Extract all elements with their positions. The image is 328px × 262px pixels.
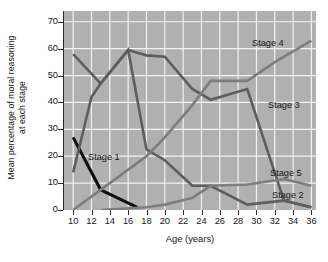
chart-figure: Mean percentage of moral reasoning at ea… bbox=[0, 0, 328, 262]
series-annotation-label: Stage 4 bbox=[252, 38, 284, 48]
x-tick-mark bbox=[238, 210, 239, 215]
x-tick-mark bbox=[147, 210, 148, 215]
x-tick-mark bbox=[311, 210, 312, 215]
series-lines bbox=[73, 41, 311, 210]
x-tick-mark bbox=[92, 210, 93, 215]
x-tick-mark bbox=[128, 210, 129, 215]
y-tick-label: 50 bbox=[36, 71, 58, 80]
x-tick-mark bbox=[183, 210, 184, 215]
y-tick-label: 60 bbox=[36, 44, 58, 53]
y-tick-mark bbox=[58, 210, 63, 211]
y-tick-label: 0 bbox=[36, 205, 58, 214]
series-annotation-label: Stage 2 bbox=[272, 190, 304, 200]
y-tick-label: 20 bbox=[36, 151, 58, 160]
x-tick-mark bbox=[110, 210, 111, 215]
y-axis-tick-labels: 010203040506070 bbox=[34, 0, 58, 262]
y-tick-label: 30 bbox=[36, 124, 58, 133]
series-annotation-label: Stage 5 bbox=[270, 168, 302, 178]
x-tick-mark bbox=[202, 210, 203, 215]
x-tick-mark bbox=[220, 210, 221, 215]
y-tick-label: 10 bbox=[36, 178, 58, 187]
y-tick-label: 70 bbox=[36, 17, 58, 26]
x-axis-tick-labels: 1012141618202224262830323436 bbox=[64, 216, 316, 230]
y-axis-title-line2: at each stage bbox=[17, 36, 28, 180]
x-tick-label: 36 bbox=[299, 216, 323, 227]
x-axis-title: Age (years) bbox=[64, 233, 316, 244]
x-tick-mark bbox=[275, 210, 276, 215]
series-annotation-label: Stage 3 bbox=[268, 100, 300, 110]
y-axis-title: Mean percentage of moral reasoning at ea… bbox=[0, 0, 34, 215]
y-tick-label: 40 bbox=[36, 97, 58, 106]
x-tick-mark bbox=[293, 210, 294, 215]
x-tick-mark bbox=[165, 210, 166, 215]
series-annotation-label: Stage 1 bbox=[88, 152, 120, 162]
y-axis-title-line1: Mean percentage of moral reasoning bbox=[7, 36, 18, 180]
x-tick-mark bbox=[256, 210, 257, 215]
x-tick-mark bbox=[73, 210, 74, 215]
